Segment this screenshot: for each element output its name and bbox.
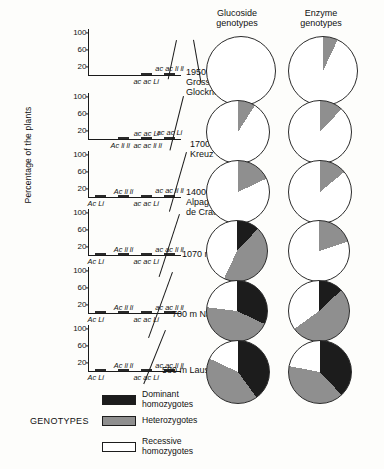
bar-slot	[135, 195, 158, 197]
bar-label-above: Ac li li	[114, 304, 133, 311]
pie-chart-0-enzyme	[288, 36, 358, 106]
legend-label-dominant: Dominant homozygotes	[142, 390, 193, 409]
pie-chart-1-glucoside	[206, 100, 270, 164]
bar	[141, 195, 152, 197]
bar	[95, 195, 106, 197]
bar-series: ac ac Liac ac Li	[89, 93, 181, 139]
bar-slot: Ac li li	[112, 311, 135, 313]
bar-label-below: Ac Li	[88, 374, 104, 381]
bar-slot: ac ac li li	[158, 195, 181, 197]
legend-item-heterozygote: Heterozygotes	[102, 416, 197, 426]
pie-chart-4-glucoside	[206, 280, 268, 342]
bar-slot: Ac li li	[112, 195, 135, 197]
bar-slot: Ac li li	[112, 253, 135, 255]
bar	[118, 137, 129, 139]
bar-slot	[89, 311, 112, 313]
legend-swatch-recessive	[102, 442, 136, 452]
bar-panel-3: 1006020Ac li liac ac li liAc Liac ac Li	[62, 206, 180, 266]
legend-swatch-heterozygote	[102, 416, 136, 426]
pie-chart-2-glucoside	[206, 160, 270, 224]
bar-axes: 1006020ac ac Liac ac Li	[88, 93, 181, 140]
pie-chart-2-enzyme	[288, 160, 352, 224]
bar	[95, 253, 106, 255]
bar-panel-4: 1006020Ac li liac ac li liAc Liac ac Li	[62, 264, 180, 324]
bar-axes: 1006020ac ac li li	[88, 29, 181, 76]
pie-column-title-glucoside: Glucoside genotypes	[204, 8, 270, 29]
bar-slot	[112, 137, 135, 139]
legend-item-recessive: Recessive homozygotes	[102, 437, 193, 456]
bar-panel-1: 1006020ac ac Liac ac LiAc li liac ac li …	[62, 90, 180, 150]
bar-series: Ac li liac ac li li	[89, 267, 181, 313]
bar-slot	[89, 253, 112, 255]
pie-chart-5-enzyme	[288, 340, 352, 404]
pie-chart-0-glucoside	[206, 36, 276, 106]
bar-series: ac ac li li	[89, 29, 181, 75]
bar	[141, 311, 152, 313]
bar-series: Ac li liac ac li li	[89, 151, 181, 197]
pie-chart-1-enzyme	[288, 100, 352, 164]
bar-slot: Ac li li	[112, 369, 135, 371]
bar-slot	[135, 73, 158, 75]
bar-slot	[89, 195, 112, 197]
figure-canvas: Percentage of the plants 1006020ac ac li…	[0, 0, 384, 469]
legend-label-recessive: Recessive homozygotes	[142, 437, 193, 456]
bar-slot: ac ac li li	[158, 253, 181, 255]
bar-label-above: ac ac li li	[155, 187, 183, 194]
bar	[141, 253, 152, 255]
legend-heading: GENOTYPES	[30, 416, 89, 426]
legend-label-heterozygote: Heterozygotes	[142, 416, 197, 426]
pie-column-title-enzyme: Enzyme genotypes	[288, 8, 354, 29]
bar	[95, 311, 106, 313]
bar-label-above: Ac li li	[114, 246, 133, 253]
bar-panel-0: 1006020ac ac li liac ac Li	[62, 26, 180, 86]
pie-chart-3-enzyme	[288, 220, 350, 282]
bar-label-above: ac ac Li	[157, 129, 182, 136]
bar-slot: ac ac Li	[158, 137, 181, 139]
bar-axes: 1006020Ac li liac ac li li	[88, 151, 181, 198]
bar-slot: ac ac Li	[135, 137, 158, 139]
legend-item-dominant: Dominant homozygotes	[102, 390, 193, 409]
bar-slot	[89, 369, 112, 371]
bar-label-above: Ac li li	[114, 362, 133, 369]
bar	[141, 73, 152, 75]
bar-label-above: ac ac Li	[134, 130, 159, 137]
pie-chart-5-glucoside	[206, 340, 270, 404]
bar	[95, 369, 106, 371]
y-axis-title: Percentage of the plants	[23, 75, 33, 235]
bar-axes: 1006020Ac li liac ac li li	[88, 267, 181, 314]
bar-panel-2: 1006020Ac li liac ac li liAc Liac ac Li	[62, 148, 180, 208]
pie-chart-4-enzyme	[288, 280, 350, 342]
legend-swatch-dominant	[102, 395, 136, 405]
bar	[141, 369, 152, 371]
pie-chart-3-glucoside	[206, 220, 268, 282]
bar-label-above: Ac li li	[114, 188, 133, 195]
bar-label-below: ac ac Li	[134, 78, 159, 85]
